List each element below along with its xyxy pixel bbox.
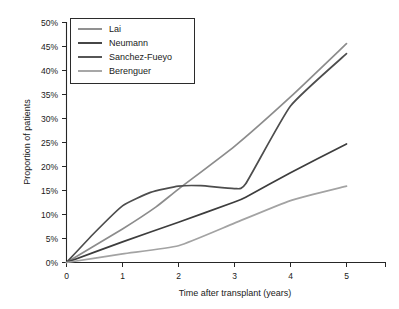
y-axis-ticks — [62, 23, 67, 263]
legend-label-berenguer: Berenguer — [109, 66, 151, 76]
legend-label-neumann: Neumann — [109, 38, 148, 48]
x-tick-label-0: 0 — [64, 271, 69, 281]
x-tick-label-3: 3 — [232, 271, 237, 281]
x-tick-label-5: 5 — [344, 271, 349, 281]
chart-legend: Lai Neumann Sanchez-Fueyo Berenguer — [71, 19, 195, 84]
y-tick-label-5: 5% — [46, 234, 59, 244]
series-line-sanchez-fueyo — [67, 54, 347, 263]
y-tick-label-25: 25% — [41, 138, 58, 148]
x-tick-label-2: 2 — [176, 271, 181, 281]
y-tick-label-0: 0% — [46, 258, 59, 268]
y-tick-label-50: 50% — [41, 18, 58, 28]
y-tick-label-30: 30% — [41, 114, 58, 124]
x-axis-ticks — [67, 263, 386, 268]
legend-label-lai: Lai — [109, 24, 121, 34]
y-tick-label-10: 10% — [41, 210, 58, 220]
y-axis-title: Proportion of patients — [22, 99, 32, 185]
chart-figure: 50% 45% 40% 35% 30% 25% 20% 15% 10% 5% 0… — [0, 0, 399, 309]
y-tick-label-35: 35% — [41, 90, 58, 100]
x-tick-label-4: 4 — [288, 271, 293, 281]
x-tick-label-1: 1 — [120, 271, 125, 281]
y-tick-label-45: 45% — [41, 42, 58, 52]
line-chart-svg: 50% 45% 40% 35% 30% 25% 20% 15% 10% 5% 0… — [0, 0, 399, 309]
legend-label-sanchez-fueyo: Sanchez-Fueyo — [109, 52, 172, 62]
x-axis-title: Time after transplant (years) — [179, 288, 292, 298]
y-tick-label-20: 20% — [41, 162, 58, 172]
y-tick-label-15: 15% — [41, 186, 58, 196]
series-line-neumann — [67, 144, 347, 263]
y-tick-label-40: 40% — [41, 66, 58, 76]
series-line-berenguer — [67, 186, 347, 262]
